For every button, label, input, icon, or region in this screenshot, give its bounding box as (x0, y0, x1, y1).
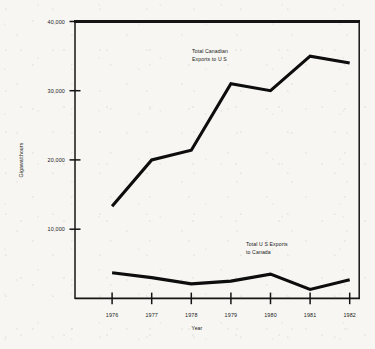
y-axis-tick-labels: 40,000 30,000 20,000 10,000 (48, 19, 65, 233)
x-tick-label-1976: 1976 (106, 312, 119, 318)
x-tick-label-1981: 1981 (304, 312, 317, 318)
x-tick-label-1977: 1977 (145, 312, 158, 318)
annotation-canadian-exports: Total Canadian Exports to U S (192, 48, 228, 62)
x-tick-label-1978: 1978 (185, 312, 198, 318)
series-line-us-exports (112, 273, 350, 290)
x-tick-label-1980: 1980 (264, 312, 277, 318)
y-tick-label-20000: 20,000 (48, 157, 65, 163)
annotation-us-line-2: to Canada (246, 249, 271, 255)
y-tick-label-40000: 40,000 (48, 19, 65, 25)
annotation-canadian-line-1: Total Canadian (192, 48, 228, 54)
x-axis-tick-labels: 1976 1977 1978 1979 1980 1981 1982 (106, 312, 356, 318)
y-tick-label-30000: 30,000 (48, 88, 65, 94)
line-chart-figure: 40,000 30,000 20,000 10,000 Gigawatthour… (0, 0, 375, 349)
x-tick-label-1979: 1979 (225, 312, 238, 318)
y-axis-title: Gigawatthours (18, 142, 24, 177)
x-axis-title: Year (192, 325, 203, 331)
annotation-us-line-1: Total U S Exports (246, 241, 288, 247)
plot-frame (74, 21, 360, 299)
chart-canvas: 40,000 30,000 20,000 10,000 Gigawatthour… (0, 0, 375, 349)
series-line-canadian-exports (112, 56, 350, 206)
annotation-us-exports: Total U S Exports to Canada (246, 241, 288, 255)
x-tick-label-1982: 1982 (343, 312, 356, 318)
annotation-canadian-line-2: Exports to U S (192, 56, 227, 62)
y-tick-label-10000: 10,000 (48, 226, 65, 232)
